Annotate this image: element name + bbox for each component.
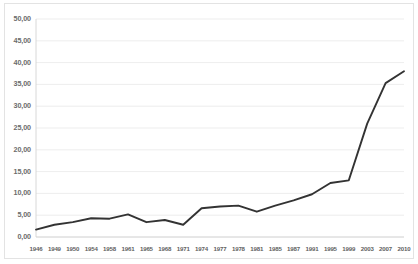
y-axis-tick-label: 10,00 <box>14 188 32 197</box>
y-axis-tick-label: 30,00 <box>14 101 32 110</box>
y-axis-tick-label: 50,00 <box>14 14 32 23</box>
y-axis-tick-label: 15,00 <box>14 167 32 176</box>
x-axis-tick-labels: 1946194919501954195819611965196819711974… <box>30 245 412 252</box>
x-axis-tick-label: 1958 <box>103 245 117 252</box>
y-axis-tick-label: 25,00 <box>14 123 32 132</box>
x-axis-tick-label: 1954 <box>85 245 99 252</box>
x-axis-tick-label: 1950 <box>66 245 80 252</box>
x-axis-tick-label: 1995 <box>324 245 338 252</box>
x-axis-tick-label: 1981 <box>250 245 264 252</box>
line-chart: 50,0045,0040,0035,0030,0025,0020,0015,00… <box>0 0 418 264</box>
y-axis-tick-label: 35,00 <box>14 79 32 88</box>
chart-container: 50,0045,0040,0035,0030,0025,0020,0015,00… <box>0 0 418 264</box>
y-axis-tick-label: 0,00 <box>17 232 31 241</box>
y-axis-tick-label: 5,00 <box>17 210 31 219</box>
x-axis-tick-label: 1971 <box>177 245 191 252</box>
x-axis-tick-label: 1985 <box>269 245 283 252</box>
x-axis-tick-label: 1961 <box>122 245 136 252</box>
y-axis-tick-label: 45,00 <box>14 36 32 45</box>
x-axis-tick-label: 2003 <box>361 245 375 252</box>
x-axis-tick-label: 1946 <box>30 245 44 252</box>
y-axis-tick-labels: 50,0045,0040,0035,0030,0025,0020,0015,00… <box>14 14 32 241</box>
y-axis-tick-label: 40,00 <box>14 58 32 67</box>
x-axis-tick-label: 1999 <box>342 245 356 252</box>
x-axis-tick-label: 1968 <box>158 245 172 252</box>
x-axis-tick-label: 2010 <box>398 245 412 252</box>
x-axis-tick-label: 1978 <box>232 245 246 252</box>
data-series-line <box>36 71 404 229</box>
gridlines-group <box>36 19 404 237</box>
x-axis-tick-label: 1977 <box>214 245 228 252</box>
y-axis-tick-label: 20,00 <box>14 145 32 154</box>
x-axis-tick-label: 1965 <box>140 245 154 252</box>
x-axis-tick-label: 2007 <box>379 245 393 252</box>
x-axis-tick-label: 1949 <box>48 245 62 252</box>
x-axis-tick-label: 1974 <box>195 245 209 252</box>
x-axis-tick-label: 1987 <box>287 245 301 252</box>
x-axis-tick-label: 1991 <box>306 245 320 252</box>
